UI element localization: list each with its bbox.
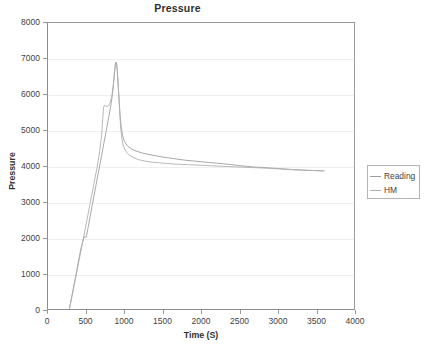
x-tick-label: 2000 xyxy=(192,316,211,326)
x-tick xyxy=(86,310,87,314)
y-tick xyxy=(43,130,47,131)
series-line-hm xyxy=(69,62,325,309)
y-tick-label: 0 xyxy=(0,305,40,315)
x-tick-label: 3000 xyxy=(269,316,288,326)
x-tick xyxy=(278,310,279,314)
legend-swatch-icon xyxy=(370,176,381,177)
y-tick-label: 6000 xyxy=(0,89,40,99)
legend-item-hm: HM xyxy=(370,183,419,197)
x-tick xyxy=(355,310,356,314)
x-tick-label: 0 xyxy=(45,316,50,326)
y-tick-label: 7000 xyxy=(0,53,40,63)
x-tick xyxy=(124,310,125,314)
y-tick-label: 2000 xyxy=(0,233,40,243)
x-tick xyxy=(163,310,164,314)
x-tick-label: 3500 xyxy=(307,316,326,326)
y-tick-label: 5000 xyxy=(0,125,40,135)
x-tick xyxy=(47,310,48,314)
y-tick-label: 8000 xyxy=(0,17,40,27)
y-tick xyxy=(43,274,47,275)
plot-area xyxy=(47,22,355,310)
y-tick xyxy=(43,58,47,59)
chart-title: Pressure xyxy=(0,2,355,14)
y-axis-title: Pressure xyxy=(7,136,17,206)
y-tick xyxy=(43,166,47,167)
legend-item-reading: Reading xyxy=(370,169,419,183)
y-tick xyxy=(43,238,47,239)
legend-label: Reading xyxy=(384,171,415,181)
y-axis-line xyxy=(47,22,48,310)
series-line-reading xyxy=(69,62,323,309)
x-tick-label: 1000 xyxy=(115,316,134,326)
x-tick xyxy=(240,310,241,314)
x-tick-label: 2500 xyxy=(230,316,249,326)
x-tick-label: 500 xyxy=(78,316,92,326)
y-tick-label: 4000 xyxy=(0,161,40,171)
x-tick xyxy=(201,310,202,314)
x-tick xyxy=(317,310,318,314)
legend: Reading HM xyxy=(367,165,420,199)
series-layer xyxy=(48,23,354,309)
x-tick-label: 4000 xyxy=(346,316,365,326)
x-tick-label: 1500 xyxy=(153,316,172,326)
legend-swatch-icon xyxy=(370,190,381,191)
y-tick xyxy=(43,202,47,203)
plot-inner xyxy=(48,23,354,309)
x-axis-title: Time (S) xyxy=(47,330,355,340)
pressure-chart: Pressure 0100020003000400050006000700080… xyxy=(0,0,427,346)
y-tick-label: 3000 xyxy=(0,197,40,207)
y-tick xyxy=(43,94,47,95)
y-tick xyxy=(43,22,47,23)
legend-label: HM xyxy=(384,185,397,195)
y-tick-label: 1000 xyxy=(0,269,40,279)
